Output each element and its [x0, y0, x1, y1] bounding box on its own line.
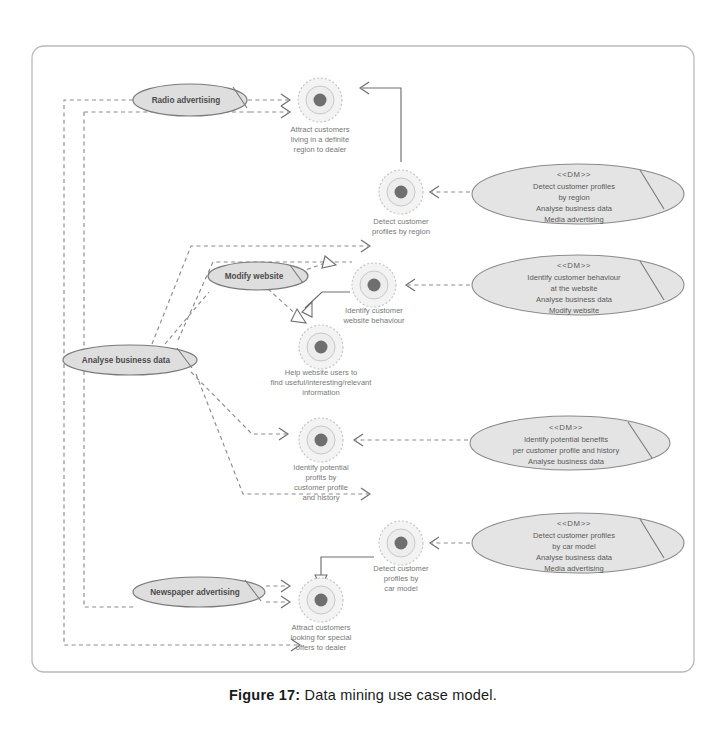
figure-caption-label: Figure 17: [229, 687, 300, 703]
dm-line: Media advertising [544, 564, 604, 573]
use-case-label: living in a definite [291, 135, 349, 144]
dm-line: Identify customer behaviour [527, 273, 621, 282]
use-case-label: Identify potential [293, 463, 349, 472]
actor-label: Analyse business data [82, 356, 171, 365]
dm-line: by region [558, 193, 589, 202]
use-case-label: profiles by region [372, 227, 430, 236]
dm-line: Analyse business data [528, 457, 605, 466]
use-case-label: car model [384, 584, 418, 593]
use-case-node[interactable] [379, 521, 423, 565]
dm-package-detect-profiles-region[interactable]: <<DM>> Detect customer profiles by regio… [472, 164, 684, 224]
actor-label: Newspaper advertising [150, 588, 240, 597]
dm-package-identify-potential-benefits[interactable]: <<DM>> Identify potential benefits per c… [470, 416, 670, 470]
dm-line: by car model [552, 542, 596, 551]
actor-radio-advertising[interactable]: Radio advertising [133, 84, 247, 116]
use-case-node[interactable] [352, 263, 396, 307]
use-case-label: region to dealer [294, 145, 347, 154]
use-case-label: profits by [306, 473, 337, 482]
use-case-label: Attract customers [291, 623, 350, 632]
actor-label: Modify website [225, 272, 284, 281]
dm-line: Analyse business data [536, 553, 613, 562]
use-case-node[interactable] [299, 578, 343, 622]
dm-line: Analyse business data [536, 204, 613, 213]
figure-page: Attract customers living in a definite r… [0, 0, 726, 747]
dm-stereotype: <<DM>> [557, 170, 591, 179]
use-case-label: website behaviour [342, 316, 405, 325]
use-case-label: Attract customers [290, 125, 349, 134]
use-case-label: Identify customer [345, 306, 403, 315]
dm-stereotype: <<DM>> [549, 423, 583, 432]
use-case-label: and history [302, 493, 339, 502]
dm-package-identify-customer-behaviour[interactable]: <<DM>> Identify customer behaviour at th… [472, 255, 684, 315]
use-case-node[interactable] [298, 78, 342, 122]
actor-analyse-business-data[interactable]: Analyse business data [63, 345, 197, 375]
use-case-label: looking for special [291, 633, 352, 642]
dm-line: Modify website [549, 306, 599, 315]
dm-line: per customer profile and history [513, 446, 620, 455]
actor-label: Radio advertising [152, 96, 221, 105]
use-case-label: find useful/interesting/relevant [271, 378, 373, 387]
dm-package-detect-profiles-car-model[interactable]: <<DM>> Detect customer profiles by car m… [472, 513, 684, 573]
use-case-label: Detect customer [373, 217, 429, 226]
dm-line: Detect customer profiles [533, 531, 615, 540]
dm-line: Media advertising [544, 215, 604, 224]
use-case-node[interactable] [299, 325, 343, 369]
figure-caption: Figure 17: Data mining use case model. [0, 686, 726, 704]
dm-line: Analyse business data [536, 295, 613, 304]
use-case-node[interactable] [299, 418, 343, 462]
use-case-node[interactable] [379, 170, 423, 214]
dm-line: Detect customer profiles [533, 182, 615, 191]
use-case-label: Detect customer [373, 564, 429, 573]
use-case-label: profiles by [384, 574, 419, 583]
use-case-diagram: Attract customers living in a definite r… [0, 0, 726, 747]
dm-stereotype: <<DM>> [557, 519, 591, 528]
dm-line: at the website [551, 284, 598, 293]
dm-line: Identify potential benefits [524, 435, 608, 444]
use-case-label: information [302, 388, 340, 397]
dm-stereotype: <<DM>> [557, 261, 591, 270]
figure-caption-text: Data mining use case model. [305, 687, 497, 703]
use-case-label: Help website users to [285, 368, 358, 377]
actor-newspaper-advertising[interactable]: Newspaper advertising [133, 577, 265, 607]
use-case-label: customer profile [294, 483, 348, 492]
use-case-label: offers to dealer [296, 643, 347, 652]
actor-modify-website[interactable]: Modify website [208, 262, 308, 290]
